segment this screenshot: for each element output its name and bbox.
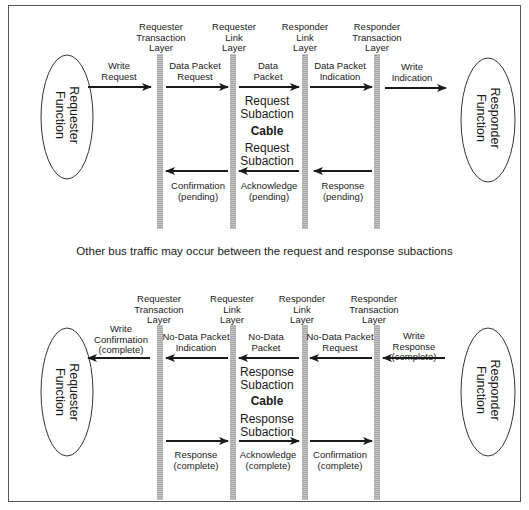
cable-label-top: Cable (251, 124, 284, 138)
layer-bar-responder-transaction-bottom (374, 325, 380, 500)
request-subaction-lower: Request Subaction (240, 142, 293, 168)
response-subaction-upper: Response Subaction (240, 366, 294, 392)
label-data-packet: Data Packet (253, 61, 282, 82)
label-acknowledge-pending: Acknowledge (pending) (241, 181, 298, 202)
layer-label-requester-link-bottom: Requester Link Layer (210, 294, 254, 326)
responder-function-label-bottom: Responder Function (474, 359, 502, 420)
label-acknowledge-complete: Acknowledge (complete) (240, 450, 297, 471)
requester-function-label-top: Requester Function (53, 86, 81, 144)
layer-label-responder-transaction-bottom: Responder Transaction Layer (349, 294, 398, 326)
layer-bar-responder-transaction-top (374, 54, 380, 229)
label-data-packet-request: Data Packet Request (169, 61, 221, 82)
label-confirmation-pending: Confirmation (pending) (171, 181, 225, 202)
label-write-indication: Write Indication (392, 62, 433, 83)
label-write-request: Write Request (101, 61, 136, 82)
layer-bar-responder-link-top (302, 54, 308, 229)
layer-label-requester-transaction-top: Requester Transaction Layer (136, 22, 185, 54)
layer-label-responder-transaction-top: Responder Transaction Layer (352, 22, 401, 54)
label-no-data-packet-request: No-Data Packet Request (306, 332, 373, 353)
layer-label-requester-link-top: Requester Link Layer (212, 22, 256, 54)
label-no-data-packet-indication: No-Data Packet Indication (162, 332, 229, 353)
label-no-data-packet: No-Data Packet (248, 332, 283, 353)
layer-label-responder-link-bottom: Responder Link Layer (279, 294, 325, 326)
cable-label-bottom: Cable (251, 394, 284, 408)
layer-bar-requester-link-bottom (230, 325, 236, 500)
label-data-packet-indication: Data Packet Indication (314, 61, 366, 82)
bus-traffic-note: Other bus traffic may occur between the … (76, 245, 452, 257)
response-subaction-lower: Response Subaction (240, 413, 294, 439)
label-write-response-complete: Write Response (complete) (392, 331, 437, 363)
layer-bar-requester-link-top (230, 54, 236, 229)
label-response-complete: Response (complete) (174, 450, 219, 471)
label-confirmation-complete: Confirmation (complete) (313, 450, 367, 471)
label-response-pending: Response (pending) (322, 181, 365, 202)
requester-function-label-bottom: Requester Function (53, 363, 81, 421)
request-subaction-upper: Request Subaction (240, 95, 293, 121)
layer-label-responder-link-top: Responder Link Layer (282, 22, 328, 54)
layer-label-requester-transaction-bottom: Requester Transaction Layer (134, 294, 183, 326)
layer-bar-requester-transaction-top (157, 54, 163, 229)
label-write-confirmation-complete: Write Confirmation (complete) (94, 324, 148, 356)
responder-function-label-top: Responder Function (474, 87, 502, 148)
